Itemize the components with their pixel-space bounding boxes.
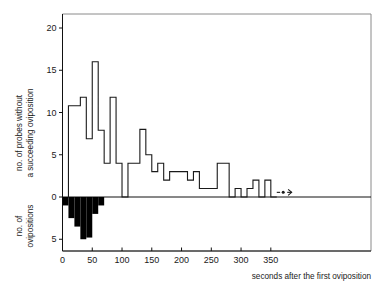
x-tick-label-100: 100 bbox=[115, 255, 130, 265]
oviposition-bar bbox=[98, 197, 104, 205]
x-tick-label-250: 250 bbox=[204, 255, 219, 265]
y-tick-label-top-20: 20 bbox=[46, 23, 56, 33]
y-axis-title-top-line-2: a succeeding oviposition bbox=[26, 88, 35, 178]
continues-dot-icon bbox=[282, 191, 285, 194]
chart-canvas: 051015205050100150200250300350seconds af… bbox=[0, 0, 387, 292]
y-axis-title-bottom-line-1: no. of bbox=[15, 215, 24, 236]
x-tick-label-0: 0 bbox=[60, 255, 65, 265]
y-tick-label-top-10: 10 bbox=[46, 108, 56, 118]
oviposition-bar bbox=[63, 197, 69, 205]
chart-figure: 051015205050100150200250300350seconds af… bbox=[0, 0, 387, 292]
x-tick-label-150: 150 bbox=[144, 255, 159, 265]
oviposition-bar bbox=[80, 197, 86, 239]
x-axis-title: seconds after the first oviposition bbox=[252, 272, 372, 281]
y-axis-title-bottom-line-2: ovipositions bbox=[26, 205, 35, 248]
probes-histogram-step bbox=[68, 62, 276, 197]
oviposition-bar bbox=[92, 197, 98, 214]
y-tick-label-top-15: 15 bbox=[46, 65, 56, 75]
y-tick-label-bottom-5: 5 bbox=[51, 234, 56, 244]
y-tick-label-top-5: 5 bbox=[51, 150, 56, 160]
oviposition-bar bbox=[74, 197, 80, 227]
y-tick-label-top-0: 0 bbox=[51, 192, 56, 202]
oviposition-bar bbox=[68, 197, 74, 218]
x-tick-label-50: 50 bbox=[87, 255, 97, 265]
plot-frame bbox=[63, 14, 372, 251]
y-axis-title-top-line-1: no. of probes without bbox=[15, 94, 24, 171]
oviposition-bar bbox=[86, 197, 92, 238]
x-tick-label-350: 350 bbox=[263, 255, 278, 265]
x-tick-label-200: 200 bbox=[174, 255, 189, 265]
x-tick-label-300: 300 bbox=[234, 255, 249, 265]
